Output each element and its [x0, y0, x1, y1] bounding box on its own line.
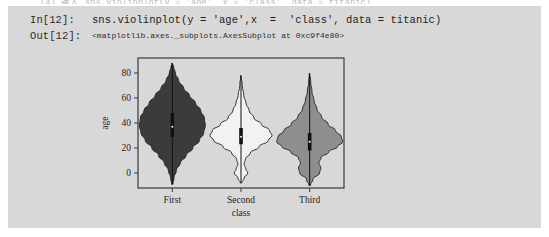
clipped-caption-text: (4) 输入 sns.violinplot(y = 'age', x = 'cl…	[40, 0, 470, 4]
violin-median-marker	[171, 126, 173, 128]
code-input[interactable]: sns.violinplot(y = 'age',x = 'class', da…	[92, 14, 441, 26]
output-row: Out[12]: <matplotlib.axes._subplots.Axes…	[8, 30, 541, 44]
violin-median-marker	[309, 141, 311, 143]
input-row: In[12]: sns.violinplot(y = 'age',x = 'cl…	[8, 14, 541, 28]
y-tick-label: 80	[122, 68, 132, 78]
y-tick-label: 20	[122, 143, 132, 153]
y-tick-label: 40	[122, 118, 132, 128]
input-prompt-label: In[12]:	[30, 14, 75, 26]
output-text: <matplotlib.axes._subplots.AxesSubplot a…	[92, 31, 344, 40]
y-tick-label: 60	[122, 93, 132, 103]
violin-chart-svg: 020406080ageFirstSecondThirdclass	[96, 50, 356, 216]
y-axis-label: age	[100, 116, 110, 129]
notebook-cell: In[12]: sns.violinplot(y = 'age',x = 'cl…	[8, 6, 541, 228]
violin-median-marker	[240, 136, 242, 138]
x-tick-label: Second	[227, 195, 255, 205]
y-tick-label: 0	[126, 168, 131, 178]
screenshot-root: (4) 输入 sns.violinplot(y = 'age', x = 'cl…	[0, 0, 549, 237]
violin-plot-figure: 020406080ageFirstSecondThirdclass	[96, 50, 356, 216]
x-tick-label: First	[164, 195, 182, 205]
violin-iqr-box	[171, 113, 175, 137]
x-axis-label: class	[232, 208, 251, 216]
x-tick-label: Third	[299, 195, 320, 205]
output-prompt-label: Out[12]:	[30, 30, 81, 42]
